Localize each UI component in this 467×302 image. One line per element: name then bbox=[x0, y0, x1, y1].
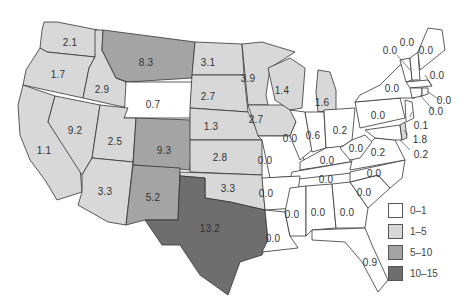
label-nj: 0.1 bbox=[414, 120, 429, 131]
label-ky: 0.0 bbox=[320, 155, 335, 166]
label-nd: 3.1 bbox=[201, 57, 216, 68]
legend-label: 0–1 bbox=[410, 205, 427, 216]
label-de: 1.8 bbox=[413, 134, 428, 145]
label-vt: 0.0 bbox=[383, 45, 398, 56]
label-oh: 0.2 bbox=[333, 125, 348, 136]
label-wi: 1.4 bbox=[275, 85, 290, 96]
label-il: 0.0 bbox=[283, 133, 298, 144]
label-in: 0.6 bbox=[306, 130, 321, 141]
label-mt: 8.3 bbox=[139, 57, 154, 68]
label-az: 3.3 bbox=[98, 186, 113, 197]
label-me: 0.0 bbox=[419, 45, 434, 56]
label-tx: 13.2 bbox=[200, 223, 220, 234]
legend-swatch bbox=[388, 224, 403, 239]
legend-swatch bbox=[388, 266, 403, 281]
legend-label: 1–5 bbox=[410, 226, 427, 237]
label-id: 2.9 bbox=[95, 84, 110, 95]
label-ct: 0.0 bbox=[429, 106, 444, 117]
label-wv: 0.0 bbox=[349, 143, 364, 154]
label-ne: 1.3 bbox=[204, 121, 219, 132]
label-ok: 3.3 bbox=[221, 183, 236, 194]
state-nj bbox=[405, 100, 414, 122]
label-ga: 0.0 bbox=[340, 207, 355, 218]
label-ut: 2.5 bbox=[108, 136, 123, 147]
label-md: 0.2 bbox=[414, 149, 429, 160]
label-mn: 3.9 bbox=[241, 73, 256, 84]
legend-item: 1–5 bbox=[388, 221, 438, 242]
label-co: 9.3 bbox=[157, 145, 172, 156]
label-la: 0.0 bbox=[266, 233, 281, 244]
label-or: 1.7 bbox=[51, 69, 66, 80]
legend-item: 5–10 bbox=[388, 242, 438, 263]
legend-item: 10–15 bbox=[388, 263, 438, 284]
state-ri bbox=[422, 88, 428, 96]
legend: 0–1 1–5 5–10 10–15 bbox=[388, 200, 438, 284]
label-nh: 0.0 bbox=[400, 37, 415, 48]
label-ia: 2.7 bbox=[249, 114, 264, 125]
label-nm: 5.2 bbox=[146, 192, 161, 203]
label-nv: 9.2 bbox=[68, 125, 83, 136]
label-ri: 0.0 bbox=[437, 95, 452, 106]
legend-swatch bbox=[388, 245, 403, 260]
legend-swatch bbox=[388, 203, 403, 218]
leader-line bbox=[400, 140, 410, 150]
label-sd: 2.7 bbox=[201, 91, 216, 102]
label-ca: 1.1 bbox=[37, 145, 52, 156]
legend-item: 0–1 bbox=[388, 200, 438, 221]
state-sd bbox=[190, 75, 248, 112]
label-ma: 0.0 bbox=[430, 70, 445, 81]
label-sc: 0.0 bbox=[357, 187, 372, 198]
label-pa: 0.0 bbox=[371, 110, 386, 121]
label-ny: 0.0 bbox=[385, 83, 400, 94]
label-fl: 0.9 bbox=[363, 257, 378, 268]
label-al: 0.0 bbox=[311, 207, 326, 218]
label-tn: 0.0 bbox=[319, 174, 334, 185]
label-va: 0.2 bbox=[371, 147, 386, 158]
label-ar: 0.0 bbox=[259, 188, 274, 199]
state-md bbox=[365, 125, 402, 140]
state-ct bbox=[410, 88, 422, 98]
label-ks: 2.8 bbox=[213, 152, 228, 163]
label-mi: 1.6 bbox=[315, 97, 330, 108]
label-wa: 2.1 bbox=[63, 37, 78, 48]
legend-label: 5–10 bbox=[410, 247, 432, 258]
label-wy: 0.7 bbox=[146, 99, 161, 110]
label-mo: 0.0 bbox=[258, 155, 273, 166]
label-nc: 0.0 bbox=[367, 168, 382, 179]
legend-label: 10–15 bbox=[410, 268, 438, 279]
label-ms: 0.0 bbox=[285, 209, 300, 220]
